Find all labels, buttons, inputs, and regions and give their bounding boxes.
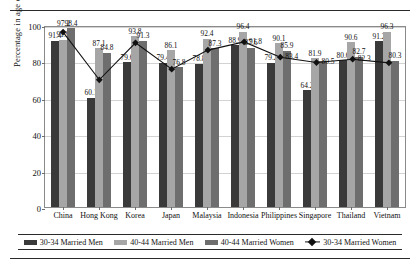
- legend-item[interactable]: 30-34 Married Men: [24, 238, 103, 247]
- chart-legend: 30-34 Married Men40-44 Married Men40-44 …: [18, 234, 402, 250]
- x-axis-tick-label: Hong Kong: [80, 211, 118, 220]
- legend-swatch-icon: [114, 240, 127, 245]
- line-value-label: 91.8: [249, 38, 262, 45]
- x-axis-tick-mark: [243, 207, 244, 210]
- bottom-rule: [10, 258, 410, 259]
- legend-swatch-icon: [24, 240, 37, 245]
- line-value-label: 83.4: [285, 54, 298, 61]
- line-value-label: 97.2: [57, 20, 70, 27]
- x-axis-tick-mark: [351, 207, 352, 210]
- line-diamond-icon: [305, 239, 320, 245]
- legend-item[interactable]: 40-44 Married Men: [114, 238, 193, 247]
- y-axis-tick-mark: [42, 209, 45, 210]
- legend-swatch-icon: [205, 240, 218, 245]
- y-axis-tick-label: 100: [28, 23, 41, 32]
- x-axis-tick-label: China: [53, 211, 72, 220]
- legend-label: 40-44 Married Men: [130, 238, 193, 247]
- x-axis-tick-label: Thailand: [337, 211, 365, 220]
- top-rule: [10, 10, 410, 11]
- legend-label: 40-44 Married Women: [221, 238, 294, 247]
- y-axis-tick-label: 0: [37, 205, 41, 214]
- x-axis-tick-mark: [171, 207, 172, 210]
- x-axis-tick-label: Korea: [125, 211, 145, 220]
- x-axis-tick-label: Malaysia: [192, 211, 221, 220]
- legend-label: 30-34 Married Women: [323, 238, 396, 247]
- y-axis-tick-label: 60: [33, 96, 42, 105]
- plot-area: Percentage in age cohort 020406080100 91…: [44, 26, 406, 208]
- legend-label: 30-34 Married Men: [40, 238, 103, 247]
- legend-item[interactable]: 30-34 Married Women: [305, 238, 396, 247]
- x-axis-tick-mark: [63, 207, 64, 210]
- line-series-labels: 97.291.883.480.582.3: [45, 27, 405, 207]
- x-axis-tick-label: Vietnam: [373, 211, 400, 220]
- x-axis-tick-mark: [279, 207, 280, 210]
- legend-item[interactable]: 40-44 Married Women: [205, 238, 294, 247]
- x-axis-tick-mark: [207, 207, 208, 210]
- x-axis-tick-mark: [99, 207, 100, 210]
- y-axis-tick-label: 20: [33, 168, 42, 177]
- x-axis-tick-label: Indonesia: [227, 211, 258, 220]
- line-value-label: 82.3: [358, 56, 371, 63]
- y-axis-label: Percentage in age cohort: [12, 0, 22, 67]
- x-axis-tick-mark: [135, 207, 136, 210]
- x-axis-tick-label: Philippines: [261, 211, 297, 220]
- x-axis-tick-mark: [315, 207, 316, 210]
- y-axis-tick-label: 40: [33, 132, 42, 141]
- line-value-label: 80.5: [322, 59, 335, 66]
- y-axis-tick-label: 80: [33, 59, 42, 68]
- x-axis-tick-label: Japan: [162, 211, 180, 220]
- chart-page: Percentage in age cohort 020406080100 91…: [0, 0, 420, 272]
- x-axis-tick-mark: [387, 207, 388, 210]
- x-axis-tick-label: Singapore: [299, 211, 331, 220]
